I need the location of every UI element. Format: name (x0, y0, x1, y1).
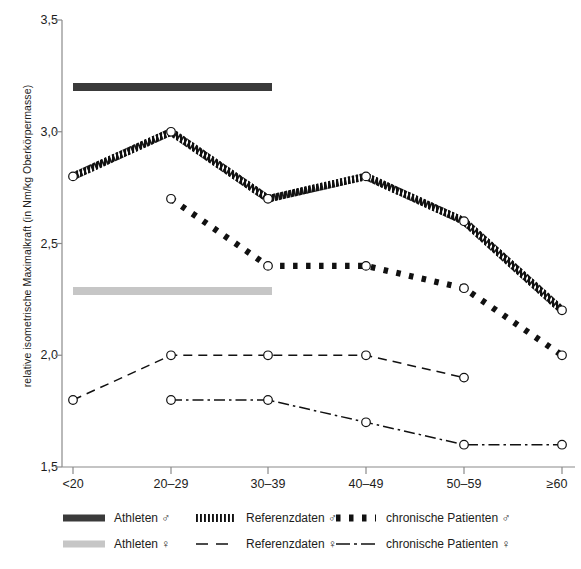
legend-item-athleten-male: Athleten ♂ (62, 506, 170, 530)
legend-label-chronische-patienten-female: chronische Patienten ♀ (386, 537, 510, 551)
legend-item-chronische-patienten-male: chronische Patienten ♂ (334, 506, 510, 530)
legend-item-referenzdaten-female: Referenzdaten ♀ (194, 532, 337, 556)
x-axis-ticks (73, 467, 562, 474)
referenzdaten-male-swatch-icon (194, 511, 238, 525)
chart-legend: Athleten ♂ Referenzdaten ♂ chronische Pa… (58, 506, 573, 564)
legend-label-referenzdaten-male: Referenzdaten ♂ (246, 511, 337, 525)
legend-label-referenzdaten-female: Referenzdaten ♀ (246, 537, 337, 551)
legend-label-athleten-male: Athleten ♂ (114, 511, 170, 525)
legend-label-athleten-female: Athleten ♀ (114, 537, 170, 551)
referenzdaten-female-swatch-icon (194, 537, 238, 551)
chart-figure: relative isometrische Maximalkraft (in N… (0, 0, 581, 569)
series-chronische-patienten-female (167, 396, 567, 449)
chronische-patienten-female-swatch-icon (334, 537, 378, 551)
series-referenzdaten-male (69, 128, 567, 315)
legend-label-chronische-patienten-male: chronische Patienten ♂ (386, 511, 510, 525)
chronische-patienten-male-swatch-icon (334, 511, 378, 525)
legend-item-referenzdaten-male: Referenzdaten ♂ (194, 506, 337, 530)
series-chronische-patienten-male (167, 195, 567, 360)
legend-item-chronische-patienten-female: chronische Patienten ♀ (334, 532, 510, 556)
legend-row-female: Athleten ♀ Referenzdaten ♀ chronische Pa… (58, 532, 573, 556)
plot-area (0, 0, 581, 500)
athleten-male-swatch-icon (62, 511, 106, 525)
legend-row-male: Athleten ♂ Referenzdaten ♂ chronische Pa… (58, 506, 573, 530)
y-axis-ticks (55, 20, 62, 467)
athleten-female-swatch-icon (62, 537, 106, 551)
legend-item-athleten-female: Athleten ♀ (62, 532, 170, 556)
